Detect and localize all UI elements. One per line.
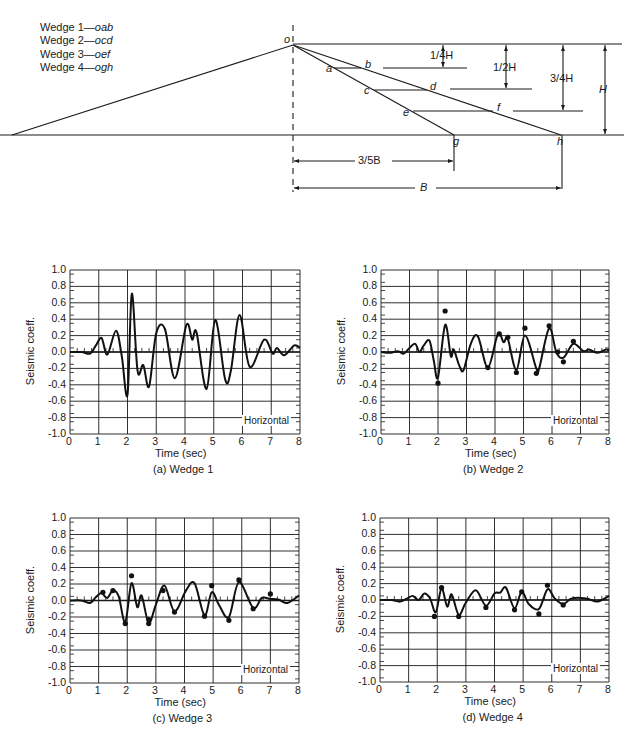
data-point-marker [536,611,541,616]
y-tick-label: 0.8 [36,528,66,540]
data-point-marker [100,590,105,595]
y-tick-label: 0.2 [346,577,376,589]
y-tick-label: 0.6 [346,544,376,556]
x-tick-label: 6 [239,435,245,447]
x-tick-label: 2 [124,435,130,447]
dim-label-b: B [420,181,427,193]
x-tick-label: 5 [209,684,215,696]
x-tick-label: 8 [605,435,611,447]
x-tick-label: 5 [520,435,526,447]
data-point-marker [268,591,273,596]
data-point-marker [251,606,256,611]
x-tick-label: 5 [519,683,525,695]
y-tick-label: -1.0 [36,676,66,688]
point-label-o: o [284,33,290,45]
y-tick-label: 0.4 [347,312,377,324]
x-axis-label: Time (sec) [465,695,517,707]
x-axis-label: Time (sec) [155,447,207,459]
x-tick-label: 8 [605,683,611,695]
x-tick-label: 6 [548,683,554,695]
data-point-marker [534,371,539,376]
point-label-e: e [403,106,409,118]
x-tick-label: 4 [491,683,497,695]
x-tick-label: 7 [577,435,583,447]
legend-wedge-4: Wedge 4—ogh [40,61,113,73]
x-tick-label: 1 [405,683,411,695]
chart-annotation: Horizontal [241,664,290,675]
x-tick-label: 5 [210,435,216,447]
point-label-f: f [497,101,500,113]
x-tick-label: 4 [491,435,497,447]
chart-annotation: Horizontal [551,663,600,674]
y-tick-label: -0.4 [36,627,66,639]
x-tick-label: 1 [95,435,101,447]
chart-annotation: Horizontal [551,415,600,426]
y-tick-label: -0.2 [36,610,66,622]
data-point-marker [439,585,444,590]
chart-title: (c) Wedge 3 [153,712,213,724]
data-point-marker [485,365,490,370]
data-point-marker [226,618,231,623]
y-tick-label: -0.6 [346,642,376,654]
data-point-marker [505,335,510,340]
x-tick-label: 2 [433,683,439,695]
dim-label-h: H [599,83,607,95]
point-label-c: c [364,84,370,96]
dim-label-three-quarter-h: 3/4H [550,72,573,84]
chart-wedge-1 [70,270,300,434]
y-tick-label: 0.4 [36,312,66,324]
data-point-marker [545,583,550,588]
data-point-marker [146,621,151,626]
chart-wedge-3 [70,518,299,683]
point-label-d: d [430,80,436,92]
data-point-marker [435,381,440,386]
chart-wedge-2 [381,270,609,434]
data-point-marker [571,339,576,344]
y-tick-label: 0.0 [346,593,376,605]
point-label-a: a [326,62,332,74]
y-axis-label: Seismic coeff. [24,311,36,391]
data-point-marker [522,326,527,331]
x-tick-label: 4 [181,684,187,696]
y-tick-label: -1.0 [36,427,66,439]
y-tick-label: -0.6 [36,394,66,406]
y-tick-label: 0.4 [36,561,66,573]
y-tick-label: -0.4 [347,378,377,390]
y-tick-label: 1.0 [36,511,66,523]
y-tick-label: 0.2 [36,329,66,341]
y-tick-label: -0.8 [347,411,377,423]
y-tick-label: -0.2 [346,609,376,621]
y-tick-label: -0.4 [36,378,66,390]
x-tick-label: 3 [462,683,468,695]
data-point-marker [561,359,566,364]
y-tick-label: 0.6 [347,296,377,308]
x-tick-label: 7 [267,435,273,447]
y-tick-label: -0.2 [36,361,66,373]
data-point-marker [512,607,517,612]
figure-canvas [0,0,634,744]
point-label-h: h [557,135,563,147]
data-point-marker [555,349,560,354]
x-tick-label: 1 [406,435,412,447]
data-point-marker [110,588,115,593]
x-tick-label: 0 [376,683,382,695]
y-tick-label: -0.8 [36,660,66,672]
y-tick-label: 0.4 [346,560,376,572]
data-markers [432,583,566,619]
y-tick-label: 0.0 [36,594,66,606]
y-tick-label: 0.6 [36,296,66,308]
y-axis-label: Seismic coeff. [335,311,347,391]
y-tick-label: -0.8 [346,659,376,671]
y-tick-label: 1.0 [36,263,66,275]
point-label-g: g [453,135,459,147]
x-tick-label: 2 [434,435,440,447]
x-tick-label: 0 [66,435,72,447]
data-point-marker [483,605,488,610]
y-tick-label: 0.8 [346,527,376,539]
x-tick-label: 6 [238,684,244,696]
chart-title: (a) Wedge 1 [153,463,213,475]
x-tick-label: 6 [548,435,554,447]
x-tick-label: 0 [66,684,72,696]
dim-label-three-fifth-b: 3/5B [358,154,381,166]
y-tick-label: 0.8 [36,279,66,291]
